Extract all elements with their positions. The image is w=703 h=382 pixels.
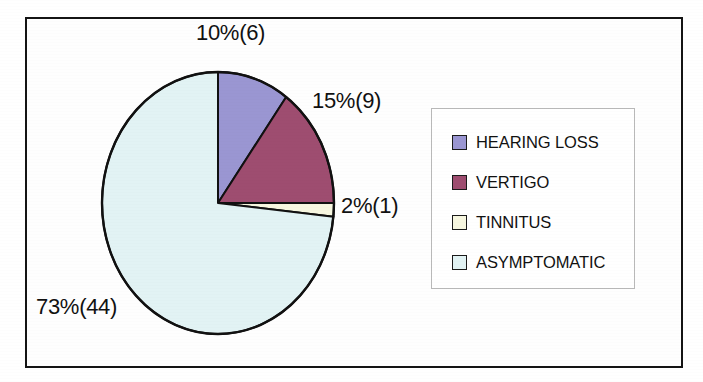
legend-swatch-icon-vertigo [452,175,467,190]
legend-swatch-icon-asymptomatic [452,255,467,270]
data-label-vertigo: 15%(9) [312,88,381,114]
legend-swatch-icon-tinnitus [452,215,467,230]
legend-item-hearing-loss: HEARING LOSS [432,122,634,162]
legend-item-tinnitus: TINNITUS [432,202,634,242]
legend-label-tinnitus: TINNITUS [476,213,551,232]
legend-label-vertigo: VERTIGO [476,173,549,192]
legend-item-vertigo: VERTIGO [432,162,634,202]
legend-label-hearing-loss: HEARING LOSS [476,133,599,152]
legend-label-asymptomatic: ASYMPTOMATIC [476,253,605,272]
data-label-tinnitus: 2%(1) [341,193,398,219]
legend-swatch-icon-hearing-loss [452,135,467,150]
data-label-asymptomatic: 73%(44) [36,294,117,320]
legend-item-asymptomatic: ASYMPTOMATIC [432,242,634,282]
chart-legend: HEARING LOSS VERTIGO TINNITUS ASYMPTOMAT… [431,108,635,289]
data-label-hearing-loss: 10%(6) [196,20,265,46]
